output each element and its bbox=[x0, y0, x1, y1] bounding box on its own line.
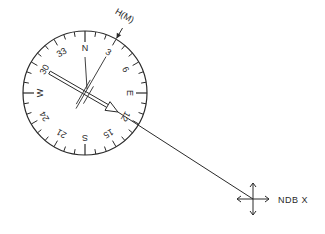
compass-tick bbox=[113, 141, 117, 147]
compass-tick bbox=[31, 121, 37, 125]
compass-tick bbox=[141, 103, 146, 104]
compass-tick bbox=[27, 112, 32, 114]
compass-tick bbox=[133, 62, 139, 66]
compass-label: 33 bbox=[55, 45, 69, 59]
compass-tick bbox=[54, 141, 58, 147]
compass-tick bbox=[64, 35, 66, 40]
needle-tail bbox=[49, 71, 51, 74]
compass-tick bbox=[129, 53, 133, 56]
compass-tick bbox=[95, 32, 96, 37]
compass-label: 15 bbox=[102, 127, 116, 141]
compass-tick bbox=[74, 149, 75, 154]
compass-tick bbox=[129, 130, 133, 133]
compass-tick bbox=[38, 130, 42, 133]
compass-label: 3 bbox=[104, 47, 113, 58]
compass-tick bbox=[45, 137, 48, 141]
compass-tick bbox=[64, 147, 66, 152]
compass-tick bbox=[95, 149, 96, 154]
compass-tick bbox=[38, 53, 42, 56]
compass-tick bbox=[122, 137, 125, 141]
needle-crossbar bbox=[76, 80, 90, 104]
compass-tick bbox=[139, 72, 144, 74]
compass-tick bbox=[141, 82, 146, 83]
compass-tick bbox=[54, 39, 58, 45]
compass-tick bbox=[24, 103, 29, 104]
compass-tick bbox=[31, 62, 37, 66]
compass-tick bbox=[104, 35, 106, 40]
compass-tick bbox=[24, 82, 29, 83]
compass-tick bbox=[113, 39, 117, 45]
compass-tick bbox=[45, 46, 48, 50]
compass-label: 6 bbox=[120, 65, 131, 74]
compass-tick bbox=[122, 46, 125, 50]
ndb-symbol bbox=[237, 183, 269, 215]
compass-tick bbox=[104, 147, 106, 152]
compass-label: 21 bbox=[55, 127, 69, 141]
compass-label: E bbox=[125, 90, 135, 96]
north-reference-line bbox=[85, 57, 87, 89]
bearing-line-to-ndb bbox=[118, 112, 253, 199]
compass-label: N bbox=[82, 43, 89, 53]
compass-tick bbox=[139, 112, 144, 114]
needle-arrow-head bbox=[105, 102, 118, 112]
compass-label: 24 bbox=[37, 110, 51, 124]
compass-tick bbox=[74, 32, 75, 37]
heading-label: H(M) bbox=[113, 6, 135, 25]
ndb-label: NDB X bbox=[278, 195, 308, 205]
compass-tick bbox=[27, 72, 32, 74]
rmi-diagram: N36E1215S2124W3033 NDB X H(M) bbox=[0, 0, 325, 234]
bearing-needle bbox=[49, 71, 118, 112]
compass-label: S bbox=[82, 133, 88, 143]
compass-label: W bbox=[35, 88, 45, 97]
